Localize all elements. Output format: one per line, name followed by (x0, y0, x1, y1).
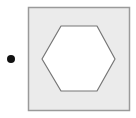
hexagon-in-square-diagram (0, 0, 136, 118)
bullet-icon (7, 55, 15, 63)
